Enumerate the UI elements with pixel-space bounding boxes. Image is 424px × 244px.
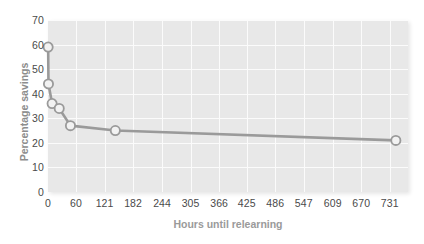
x-tick-label: 547 — [295, 198, 313, 209]
data-series — [48, 20, 408, 192]
x-axis-title: Hours until relearning — [48, 218, 408, 230]
x-tick-label: 0 — [45, 198, 51, 209]
data-point-marker — [55, 104, 64, 113]
x-tick-label: 486 — [266, 198, 284, 209]
x-tick-label: 609 — [324, 198, 342, 209]
x-tick-label: 60 — [70, 198, 82, 209]
x-tick-label: 425 — [238, 198, 256, 209]
data-point-marker — [66, 121, 75, 130]
data-point-marker — [111, 126, 120, 135]
x-tick-label: 670 — [352, 198, 370, 209]
plot-area — [48, 20, 408, 192]
x-tick-label: 305 — [182, 198, 200, 209]
x-axis-ticks: 060121182244305366425486547609670731 — [48, 198, 408, 212]
plot-inner — [48, 20, 408, 192]
x-tick-label: 244 — [153, 198, 171, 209]
series-line — [48, 47, 396, 140]
data-point-marker — [391, 136, 400, 145]
x-tick-label: 731 — [381, 198, 399, 209]
data-point-marker — [44, 42, 53, 51]
y-axis-title: Percentage savings — [18, 32, 30, 192]
data-point-marker — [44, 79, 53, 88]
x-tick-label: 366 — [210, 198, 228, 209]
x-tick-label: 121 — [96, 198, 114, 209]
x-tick-label: 182 — [124, 198, 142, 209]
y-tick-label: 70 — [2, 15, 44, 26]
forgetting-curve-chart: 010203040506070 060121182244305366425486… — [0, 0, 424, 244]
